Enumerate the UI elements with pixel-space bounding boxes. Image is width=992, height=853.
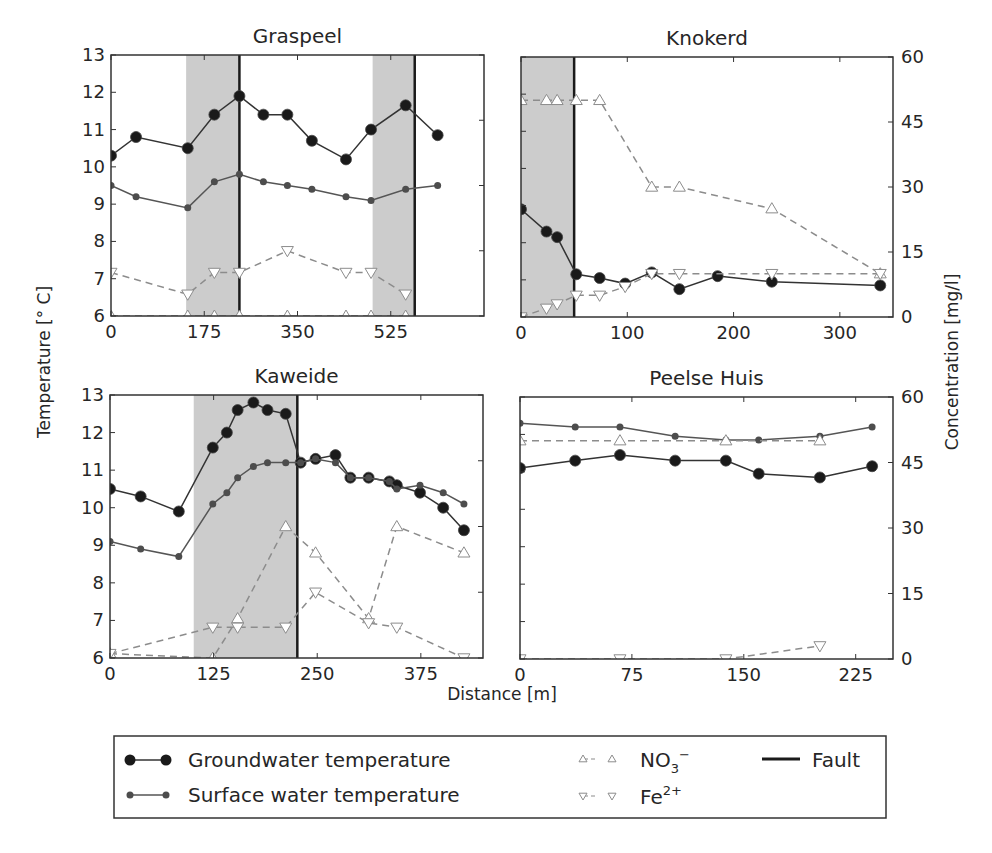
y-tick-label: 6 — [94, 305, 105, 326]
y2-tick-label: 15 — [901, 241, 924, 262]
plot-frame — [111, 55, 484, 316]
x-tick-label: 0 — [514, 664, 525, 685]
y2-tick-label: 0 — [901, 306, 912, 327]
y-tick-label: 8 — [93, 572, 104, 593]
x-tick-label: 0 — [104, 663, 115, 684]
x-tick-label: 525 — [374, 321, 408, 342]
panel-knokerd: 0100200300015304560Knokerd — [515, 26, 924, 343]
xlabel-text: Distance [m] — [0, 0, 1, 1]
y-tick-label: 11 — [82, 119, 105, 140]
y-tick-label: 10 — [81, 497, 104, 518]
legend-groundwater: Groundwater temperature — [188, 748, 451, 772]
panel-title: Knokerd — [666, 26, 748, 50]
y2-tick-label: 45 — [901, 452, 924, 473]
y-tick-label: 11 — [81, 459, 104, 480]
y-axis-label-left: Temperature [° C] — [34, 286, 54, 439]
plot-frame — [520, 397, 893, 659]
figure-canvas: 0175350525678910111213Graspeel0100200300… — [0, 0, 992, 853]
legend-surface: Surface water temperature — [188, 783, 460, 807]
panel-title: Peelse Huis — [649, 366, 763, 390]
y-tick-label: 9 — [93, 534, 104, 555]
x-tick-label: 300 — [823, 322, 857, 343]
y2-tick-label: 30 — [901, 517, 924, 538]
x-axis-label: Distance [m] — [447, 684, 557, 704]
x-tick-label: 200 — [716, 322, 750, 343]
x-tick-label: 75 — [620, 664, 643, 685]
y-tick-label: 7 — [94, 268, 105, 289]
legend-fault: Fault — [812, 748, 860, 772]
y-tick-label: 13 — [82, 44, 105, 65]
panel-peelse-huis: 075150225015304560Peelse Huis — [514, 366, 924, 685]
x-tick-label: 125 — [196, 663, 230, 684]
x-tick-label: 150 — [727, 664, 761, 685]
y2-tick-label: 60 — [901, 46, 924, 67]
x-tick-label: 225 — [839, 664, 873, 685]
x-tick-label: 0 — [105, 321, 116, 342]
x-tick-label: 350 — [280, 321, 314, 342]
x-tick-label: 100 — [610, 322, 644, 343]
panel-kaweide: 0125250375678910111213Kaweide — [81, 364, 483, 684]
y-tick-label: 6 — [93, 647, 104, 668]
y-tick-label: 12 — [81, 422, 104, 443]
y2-tick-label: 30 — [901, 176, 924, 197]
y-tick-label: 8 — [94, 230, 105, 251]
y-tick-label: 9 — [94, 193, 105, 214]
legend: Groundwater temperatureSurface water tem… — [114, 736, 886, 818]
y-tick-label: 12 — [82, 81, 105, 102]
y2-tick-label: 15 — [901, 583, 924, 604]
x-tick-label: 0 — [515, 322, 526, 343]
y2-tick-label: 0 — [901, 648, 912, 669]
y2-tick-label: 45 — [901, 111, 924, 132]
y-tick-label: 13 — [81, 384, 104, 405]
shaded-zone — [186, 55, 239, 316]
x-tick-label: 175 — [187, 321, 221, 342]
panel-graspeel: 0175350525678910111213Graspeel — [82, 24, 484, 342]
y2-tick-label: 60 — [901, 386, 924, 407]
panel-title: Graspeel — [253, 24, 342, 48]
x-tick-label: 250 — [300, 663, 334, 684]
y-tick-label: 7 — [93, 609, 104, 630]
y-axis-label-right: Concentration [mg/l] — [942, 274, 962, 451]
y-tick-label: 10 — [82, 156, 105, 177]
panel-title: Kaweide — [254, 364, 338, 388]
x-tick-label: 375 — [404, 663, 438, 684]
